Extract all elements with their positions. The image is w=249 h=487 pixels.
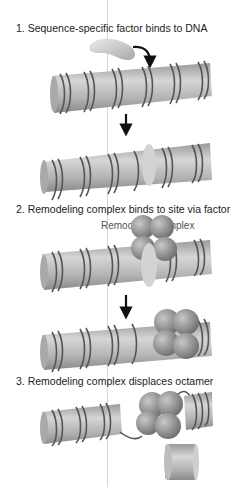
- displaced-histone-octamer: [164, 444, 199, 480]
- chromatin-fiber-1: [50, 61, 212, 114]
- chromatin-remodeling-diagram: [0, 0, 249, 487]
- factor-protein-1: [89, 39, 135, 60]
- chromatin-fiber-3: [40, 239, 212, 292]
- chromatin-fiber-2: [40, 143, 212, 200]
- binding-arrow: [133, 47, 150, 62]
- bound-factor: [142, 144, 156, 186]
- chromatin-fiber-4: [40, 309, 212, 372]
- chromatin-fiber-5: [40, 391, 213, 446]
